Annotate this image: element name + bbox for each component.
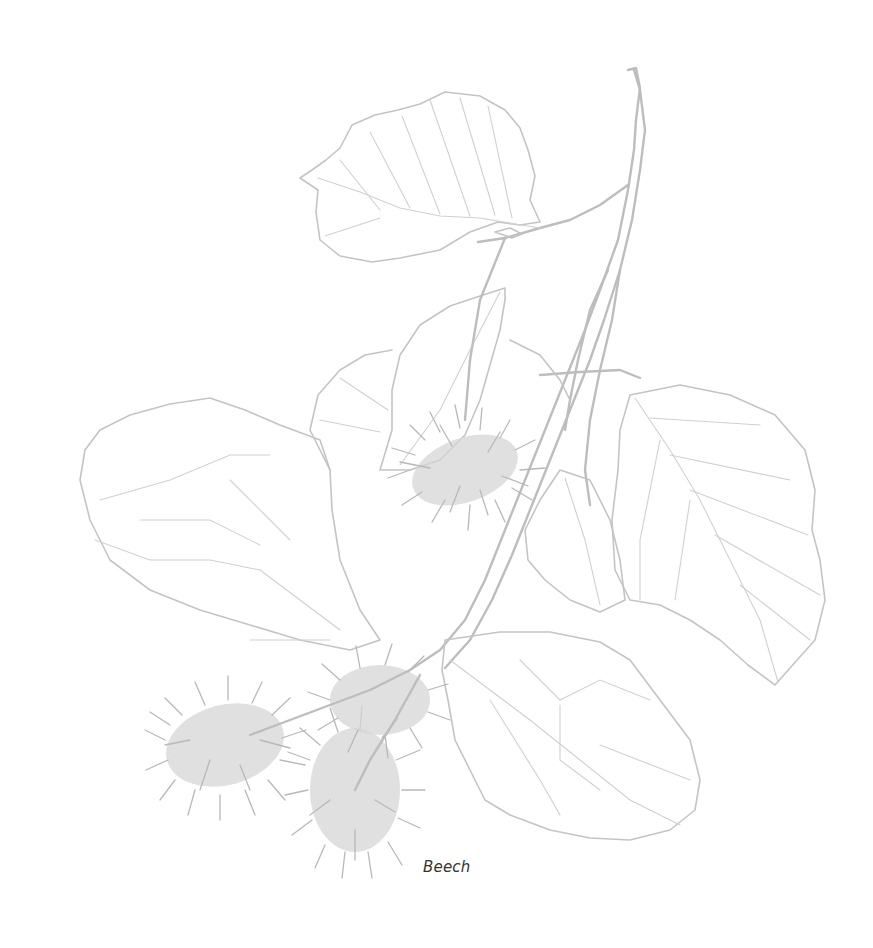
leaf-middle-right (525, 470, 625, 612)
leaf-bottom-right (442, 632, 700, 840)
nut-husk-lower-left (145, 676, 306, 820)
leaf-top (300, 92, 540, 262)
main-twig (410, 68, 645, 670)
beech-illustration (0, 0, 873, 948)
leaf-large-left (80, 398, 380, 650)
nut-husk-lower-center (285, 706, 425, 878)
figure-caption: Beech (423, 858, 471, 876)
nut-husk-upper (388, 405, 545, 530)
leaf-bud (495, 228, 522, 238)
leaf-right (612, 385, 825, 685)
